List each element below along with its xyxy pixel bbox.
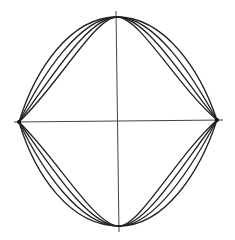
- diagram-canvas: [0, 0, 235, 240]
- spindle-diagram: [0, 0, 235, 240]
- left-node: [17, 120, 21, 124]
- upper-right-curves: [117, 17, 217, 120]
- lower-right-curves: [119, 120, 217, 226]
- lower-left-curves: [19, 122, 119, 226]
- horizontal-axis: [14, 120, 223, 122]
- upper-left-curves: [19, 17, 117, 122]
- right-node: [215, 118, 219, 122]
